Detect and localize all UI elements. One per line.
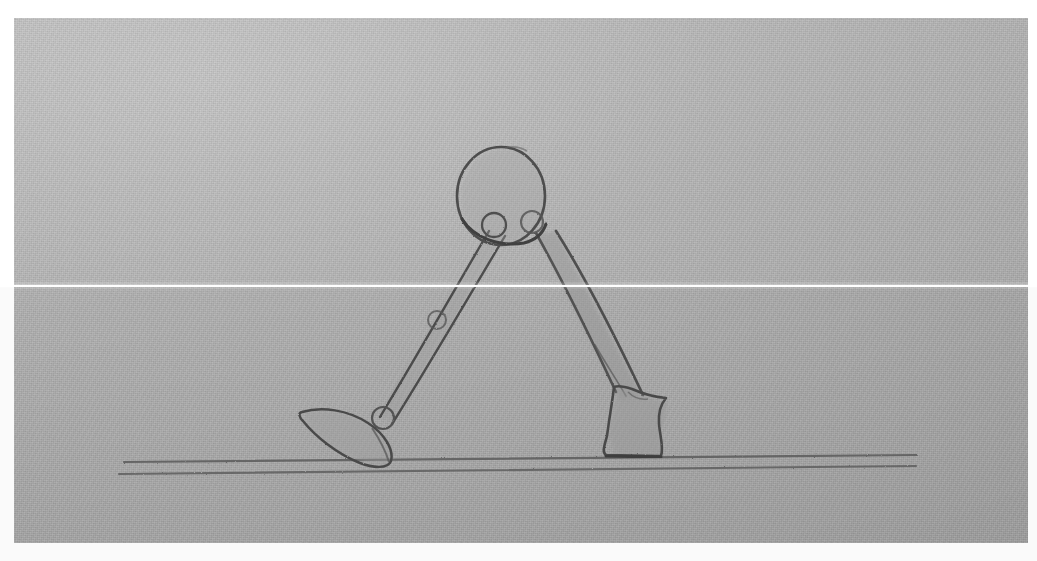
right-foot-sole xyxy=(606,456,661,457)
right-leg-group xyxy=(536,231,643,400)
ground-line-lower xyxy=(119,466,916,474)
left-leg-outline-lower xyxy=(392,236,505,424)
body-group xyxy=(457,147,546,245)
right-leg-outline-outer xyxy=(556,231,643,395)
left-leg-outline-upper xyxy=(380,231,489,417)
ground-lines xyxy=(119,455,917,474)
right-leg-outline xyxy=(536,233,616,392)
screenshot-canvas xyxy=(0,0,1037,561)
right-leg-shading xyxy=(537,232,640,400)
right-foot-group xyxy=(604,386,668,457)
pencil-drawing xyxy=(0,0,1037,561)
ground-line-upper xyxy=(124,455,917,462)
left-leg-group xyxy=(378,231,505,424)
left-leg-shading xyxy=(378,231,503,423)
